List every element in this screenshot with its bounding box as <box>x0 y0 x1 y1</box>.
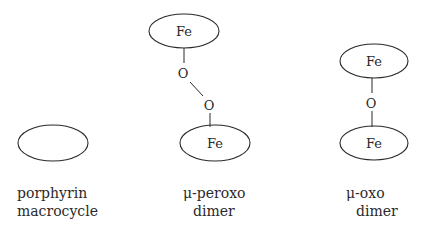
porphyrin-label-line2: macrocycle <box>17 203 98 219</box>
mu-peroxo-dimer: Fe O O Fe <box>149 14 250 161</box>
o-o-bond <box>190 82 203 96</box>
oxygen-atom-1: O <box>178 66 189 81</box>
oxygen-atom: O <box>366 96 377 111</box>
bottom-fe-atom: Fe <box>366 136 382 151</box>
top-fe-atom: Fe <box>176 24 192 39</box>
porphyrin-diagram: Fe O O Fe Fe O Fe porphyrin macrocycle μ… <box>0 0 425 233</box>
top-fe-atom: Fe <box>366 54 382 69</box>
porphyrin-macrocycle <box>18 125 88 161</box>
mu-peroxo-label-line2: dimer <box>193 203 235 219</box>
porphyrin-label-line1: porphyrin <box>17 185 87 201</box>
mu-oxo-label-line2: dimer <box>356 203 398 219</box>
mu-peroxo-label-line1: μ-peroxo <box>183 185 246 201</box>
mu-oxo-label-line1: μ-oxo <box>346 185 385 201</box>
porphyrin-ring <box>18 125 88 161</box>
oxygen-atom-2: O <box>204 98 215 113</box>
mu-oxo-dimer: Fe O Fe <box>340 44 408 160</box>
bottom-fe-atom: Fe <box>207 136 223 151</box>
